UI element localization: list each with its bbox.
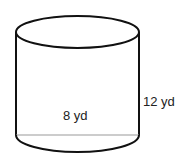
top-ellipse xyxy=(16,16,139,48)
diameter-label: 8 yd xyxy=(63,108,88,123)
cylinder-shape xyxy=(0,0,184,159)
height-label: 12 yd xyxy=(143,94,175,109)
bottom-arc xyxy=(16,135,139,152)
cylinder-diagram: 8 yd 12 yd xyxy=(0,0,184,159)
